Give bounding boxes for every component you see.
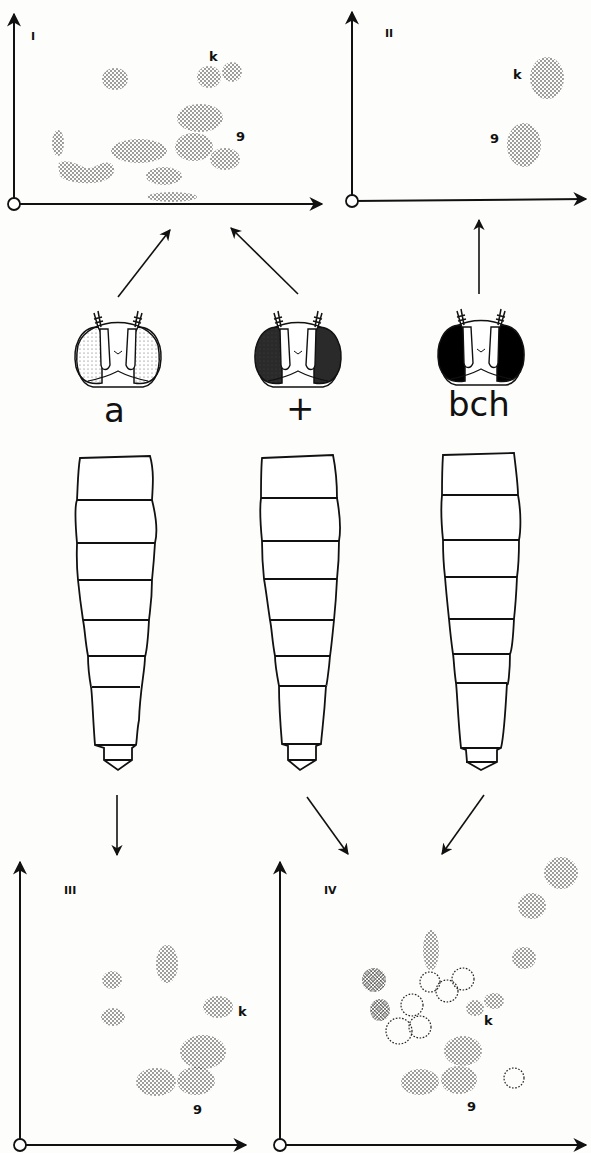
spot-label-g: 9	[490, 131, 499, 146]
genotype-label-bch: bch	[448, 384, 510, 424]
spot-label-k: k	[209, 49, 218, 64]
panel-label-I: I	[31, 30, 35, 43]
origin-circle	[8, 198, 20, 210]
abdomen-wildtype	[260, 455, 340, 770]
origin-circle	[274, 1139, 286, 1151]
panel-label-II: II	[385, 27, 393, 40]
genotype-label-a: a	[104, 390, 125, 430]
genotype-label-wildtype: +	[286, 388, 315, 428]
panel-III	[14, 862, 246, 1151]
panel-I	[8, 14, 322, 210]
head-wildtype	[255, 311, 341, 387]
head-a	[75, 311, 161, 387]
spots	[52, 62, 242, 202]
abdomen-a	[76, 456, 157, 770]
origin-circle	[346, 195, 358, 207]
spot-label-g: 9	[236, 129, 245, 144]
arrows-top	[118, 220, 479, 297]
x-axis	[352, 199, 586, 201]
spot-label-g: 9	[467, 1099, 476, 1114]
panel-IV	[274, 857, 586, 1151]
eye-right	[314, 327, 341, 383]
spots	[101, 945, 233, 1096]
spot-label-g: 9	[193, 1102, 202, 1117]
arrows-bottom	[117, 795, 484, 855]
panel-label-III: III	[64, 884, 76, 897]
spot-label-k: k	[513, 67, 522, 82]
eye-right	[497, 325, 524, 381]
panel-label-IV: IV	[324, 884, 337, 897]
spot-label-k: k	[238, 1004, 247, 1019]
figure-canvas	[0, 0, 591, 1153]
eye-left	[75, 327, 102, 383]
eye-left	[438, 325, 465, 381]
eye-right	[134, 327, 161, 383]
filled-spots	[362, 857, 578, 1095]
panel-II	[346, 12, 586, 207]
abdomen-bch	[441, 453, 520, 770]
spot-label-k: k	[484, 1013, 493, 1028]
origin-circle	[14, 1139, 26, 1151]
head-bch	[438, 309, 524, 385]
